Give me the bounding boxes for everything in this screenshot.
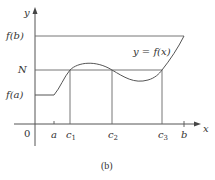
- origin-label: 0: [24, 129, 30, 139]
- fb-label: f(b): [6, 31, 24, 41]
- x-axis-label: x: [203, 124, 209, 134]
- fa-label: f(a): [6, 90, 23, 100]
- b-label: b: [181, 130, 187, 140]
- figure-caption: (b): [101, 160, 113, 171]
- curve-label: y = f(x): [133, 47, 171, 57]
- n-label: N: [18, 65, 27, 75]
- c3-label: c3: [158, 130, 168, 142]
- a-label: a: [51, 130, 57, 140]
- y-axis-arrow-icon: [33, 7, 38, 14]
- c1-label: c1: [66, 130, 76, 142]
- x-axis-arrow-icon: [194, 122, 201, 127]
- ivt-diagram: y x 0 f(b) N f(a) a c1 c2 c3 b y = f(x) …: [0, 0, 215, 180]
- c2-label: c2: [108, 130, 118, 142]
- y-axis-label: y: [24, 8, 30, 18]
- diagram-graphic: [0, 0, 215, 180]
